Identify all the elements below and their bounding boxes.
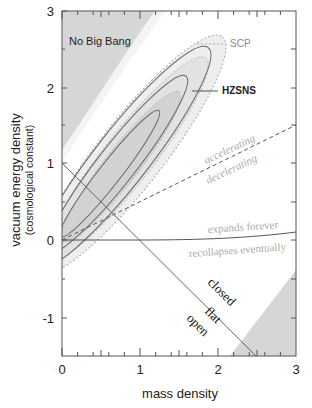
plot-area	[12, 11, 296, 357]
recollapses-label: recollapses eventually	[188, 240, 287, 259]
y-tick-1: 1	[47, 156, 54, 171]
x-tick-0: 0	[58, 362, 65, 377]
y-axis-subtitle: (cosmological constant)	[23, 125, 35, 235]
chart: 0 1 2 3 3 2 1 0 -1 mass density vacuum e…	[0, 0, 312, 408]
y-tick-0: 0	[47, 233, 54, 248]
scp-label: SCP	[230, 38, 251, 49]
x-tick-1: 1	[136, 362, 143, 377]
y-tick-3: 3	[47, 4, 54, 19]
hzsns-label: HZSNS	[222, 85, 256, 96]
y-tick-m1: -1	[42, 311, 54, 326]
x-tick-2: 2	[214, 362, 221, 377]
closed-label: closed	[205, 275, 239, 309]
no-big-bang-label: No Big Bang	[69, 35, 131, 47]
y-tick-2: 2	[47, 81, 54, 96]
y-axis-title: vacuum energy density	[8, 113, 23, 247]
recollapse-region	[230, 270, 296, 356]
x-tick-3: 3	[292, 362, 299, 377]
x-axis-title: mass density	[142, 386, 218, 401]
expands-forever-label: expands forever	[207, 218, 279, 235]
